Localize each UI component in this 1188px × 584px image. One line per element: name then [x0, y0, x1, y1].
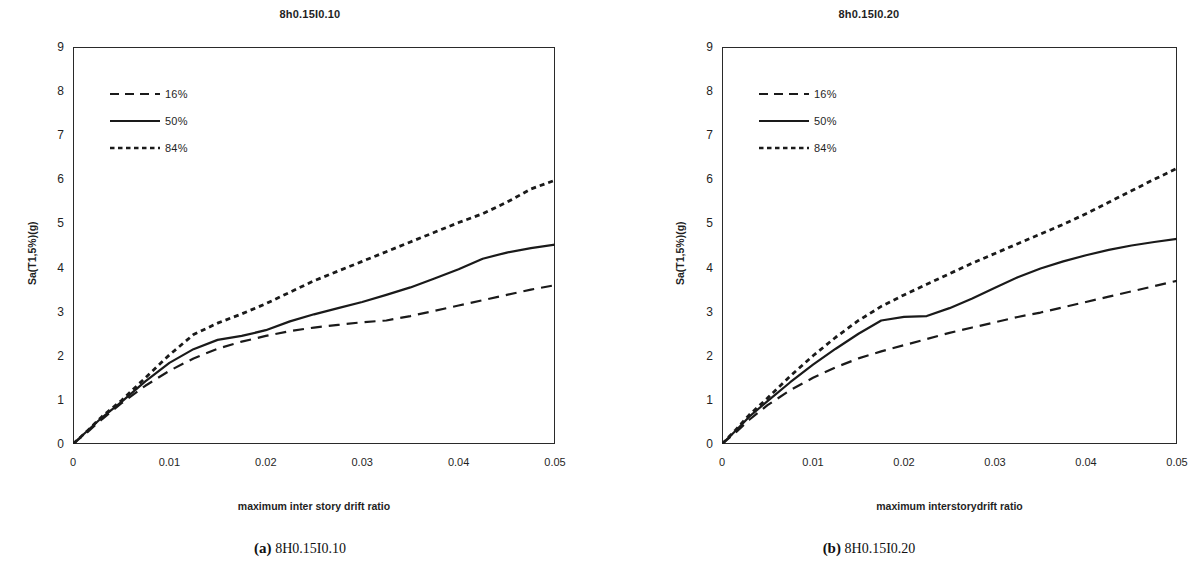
- y-tick-label: 0: [706, 437, 713, 451]
- panel-caption-b: (b) 8H0.15I0.20: [600, 540, 1138, 557]
- legend-label-84: 84%: [814, 142, 837, 154]
- y-tick-label: 7: [57, 128, 64, 142]
- legend-label-16: 16%: [814, 88, 837, 100]
- legend-label-84: 84%: [165, 142, 188, 154]
- y-tick-label: 3: [706, 305, 713, 319]
- y-tick-label: 3: [57, 305, 64, 319]
- legend-item-16: 16%: [109, 80, 188, 107]
- legend-dotted-swatch-icon: [758, 143, 810, 153]
- series-line-50: [722, 239, 1177, 444]
- caption-tag-b: (b): [823, 540, 841, 556]
- y-tick-label: 2: [706, 349, 713, 363]
- series-line-84: [73, 180, 555, 444]
- x-tick-label: 0.01: [159, 456, 180, 468]
- y-axis-label-a: Sa(T1,5%)(g): [26, 221, 38, 285]
- caption-tag-a: (a): [254, 540, 272, 556]
- y-tick-label: 1: [57, 393, 64, 407]
- y-tick-label: 5: [57, 216, 64, 230]
- chart-panel-a: 8h0.15I0.10 Sa(T1,5%)(g) 0123456789 00.0…: [0, 0, 600, 584]
- y-tick-label: 0: [57, 437, 64, 451]
- series-line-16: [722, 281, 1177, 444]
- x-tick-label: 0.03: [984, 456, 1005, 468]
- x-axis-label-a: maximum inter story drift ratio: [73, 500, 555, 512]
- y-tick-label: 8: [57, 84, 64, 98]
- y-axis-label-b: Sa(T1,5%)(g): [674, 221, 686, 285]
- x-tick-label: 0.05: [1166, 456, 1187, 468]
- legend-dashed-swatch-icon: [758, 89, 810, 99]
- y-tick-label: 4: [706, 261, 713, 275]
- chart-title-b: 8h0.15I0.20: [600, 8, 1138, 20]
- legend-item-16: 16%: [758, 80, 837, 107]
- legend-a: 16% 50% 84%: [109, 80, 188, 161]
- legend-dashed-swatch-icon: [109, 89, 161, 99]
- legend-item-84: 84%: [758, 134, 837, 161]
- legend-label-50: 50%: [165, 115, 188, 127]
- x-tick-label: 0: [70, 456, 76, 468]
- y-tick-label: 9: [57, 40, 64, 54]
- legend-item-50: 50%: [758, 107, 837, 134]
- legend-b: 16% 50% 84%: [758, 80, 837, 161]
- caption-text-a: 8H0.15I0.10: [275, 541, 346, 556]
- y-tick-label: 5: [706, 216, 713, 230]
- caption-text-b: 8H0.15I0.20: [845, 541, 916, 556]
- panel-caption-a: (a) 8H0.15I0.10: [0, 540, 600, 557]
- y-tick-label: 7: [706, 128, 713, 142]
- x-tick-label: 0.04: [448, 456, 469, 468]
- legend-solid-swatch-icon: [758, 116, 810, 126]
- legend-item-50: 50%: [109, 107, 188, 134]
- series-line-50: [73, 245, 555, 444]
- series-line-84: [722, 168, 1177, 444]
- series-line-16: [73, 285, 555, 444]
- x-tick-label: 0.04: [1075, 456, 1096, 468]
- y-tick-label: 6: [57, 172, 64, 186]
- legend-label-16: 16%: [165, 88, 188, 100]
- legend-label-50: 50%: [814, 115, 837, 127]
- chart-title-a: 8h0.15I0.10: [0, 8, 610, 20]
- y-tick-label: 1: [706, 393, 713, 407]
- x-tick-label: 0.02: [893, 456, 914, 468]
- plot-area-b: 0123456789 00.010.020.030.040.05 16% 50%: [722, 47, 1177, 444]
- legend-solid-swatch-icon: [109, 116, 161, 126]
- x-tick-label: 0.01: [802, 456, 823, 468]
- legend-item-84: 84%: [109, 134, 188, 161]
- y-tick-label: 9: [706, 40, 713, 54]
- legend-dotted-swatch-icon: [109, 143, 161, 153]
- x-tick-label: 0: [719, 456, 725, 468]
- y-tick-label: 4: [57, 261, 64, 275]
- x-tick-label: 0.03: [351, 456, 372, 468]
- y-tick-label: 2: [57, 349, 64, 363]
- y-tick-label: 6: [706, 172, 713, 186]
- chart-panel-b: 8h0.15I0.20 Sa(T1,5%)(g) 0123456789 00.0…: [600, 0, 1138, 584]
- x-tick-label: 0.05: [544, 456, 565, 468]
- x-axis-label-b: maximum interstorydrift ratio: [722, 500, 1177, 512]
- x-tick-label: 0.02: [255, 456, 276, 468]
- y-tick-label: 8: [706, 84, 713, 98]
- plot-area-a: 0123456789 00.010.020.030.040.05 16% 50%: [73, 47, 555, 444]
